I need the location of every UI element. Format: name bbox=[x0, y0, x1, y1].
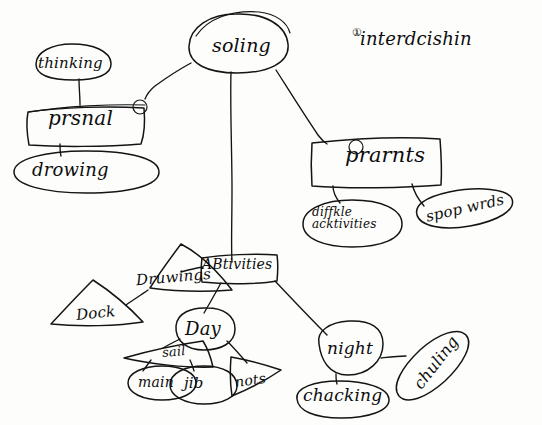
edge-soling-prsnal bbox=[145, 63, 191, 99]
node-label-night: night bbox=[327, 338, 373, 358]
node-label-soling: soling bbox=[212, 34, 271, 56]
node-label-day: Day bbox=[185, 318, 221, 339]
node-label-diffkle: diffkle acktivities bbox=[312, 206, 377, 230]
node-label-jib: jib bbox=[184, 374, 204, 392]
node-label-chacking: chacking bbox=[303, 385, 382, 405]
heading-label-interdcishin: interdcishin bbox=[360, 28, 472, 49]
edge-activities-night bbox=[275, 281, 327, 335]
edge-soling-activities bbox=[231, 72, 232, 262]
edge-sail-jib bbox=[190, 360, 194, 371]
diffkle-line-2: acktivities bbox=[312, 217, 377, 231]
node-label-sail: sail bbox=[161, 343, 186, 360]
node-label-prsnal: prsnal bbox=[48, 106, 113, 130]
edge-druwings-dock bbox=[126, 290, 148, 305]
edge-night-chacking bbox=[336, 374, 337, 384]
node-label-activities: ABtivities bbox=[202, 256, 272, 272]
node-label-thinking: thinking bbox=[38, 54, 103, 72]
edge-thinking-prsnal bbox=[79, 79, 80, 105]
edge-night-chuling bbox=[381, 356, 406, 358]
edge-soling-prarnts bbox=[276, 70, 327, 144]
mind-map-canvas: thinking soling ① interdcishin prsnal ① … bbox=[0, 0, 542, 425]
node-label-drowing: drowing bbox=[32, 159, 109, 180]
node-label-prarnts: prarnts bbox=[345, 143, 425, 167]
node-label-main: main bbox=[138, 374, 174, 390]
